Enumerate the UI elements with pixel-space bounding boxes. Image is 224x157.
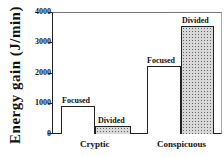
y-tick-0: 0 [47,130,51,138]
bar-cryptic-divided [95,126,131,134]
y-axis-label: Energy gain (J/min) [7,5,29,145]
bar-label-conspicuous-divided: Divided [182,16,209,25]
x-category-cryptic: Cryptic [80,139,110,149]
bar-label-cryptic-focused: Focused [62,96,90,105]
x-category-conspicuous: Conspicuous [157,139,206,149]
bar-label-cryptic-divided: Divided [98,116,125,125]
bar-label-conspicuous-focused: Focused [147,56,175,65]
bar-cryptic-focused [61,106,95,134]
bar-conspicuous-focused [147,66,181,134]
bar-conspicuous-divided [181,26,214,134]
